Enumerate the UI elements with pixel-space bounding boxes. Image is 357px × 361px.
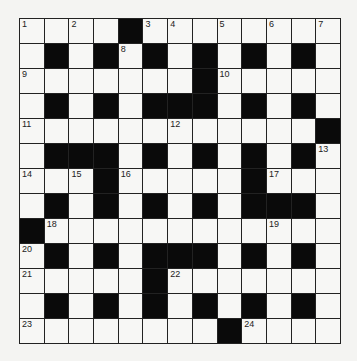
grid-cell[interactable]: [20, 294, 44, 318]
grid-cell[interactable]: [218, 269, 242, 293]
grid-cell[interactable]: [218, 219, 242, 243]
grid-cell[interactable]: [218, 194, 242, 218]
grid-cell[interactable]: [69, 44, 93, 68]
grid-cell[interactable]: [143, 69, 167, 93]
grid-cell[interactable]: [193, 269, 217, 293]
grid-cell[interactable]: [94, 19, 118, 43]
grid-cell[interactable]: [316, 269, 340, 293]
grid-cell[interactable]: [316, 219, 340, 243]
grid-cell[interactable]: [316, 294, 340, 318]
grid-cell[interactable]: [168, 194, 192, 218]
grid-cell[interactable]: 12: [168, 119, 192, 143]
grid-cell[interactable]: [143, 319, 167, 343]
grid-cell[interactable]: [69, 319, 93, 343]
grid-cell[interactable]: [218, 44, 242, 68]
grid-cell[interactable]: [292, 269, 316, 293]
grid-cell[interactable]: [168, 44, 192, 68]
grid-cell[interactable]: [119, 244, 143, 268]
grid-cell[interactable]: [168, 294, 192, 318]
grid-cell[interactable]: [69, 94, 93, 118]
grid-cell[interactable]: 18: [45, 219, 69, 243]
grid-cell[interactable]: 8: [119, 44, 143, 68]
grid-cell[interactable]: [193, 319, 217, 343]
grid-cell[interactable]: [316, 69, 340, 93]
grid-cell[interactable]: [218, 244, 242, 268]
grid-cell[interactable]: [94, 319, 118, 343]
grid-cell[interactable]: 22: [168, 269, 192, 293]
grid-cell[interactable]: [45, 269, 69, 293]
grid-cell[interactable]: [193, 19, 217, 43]
grid-cell[interactable]: [143, 169, 167, 193]
grid-cell[interactable]: [193, 219, 217, 243]
grid-cell[interactable]: [20, 44, 44, 68]
grid-cell[interactable]: [292, 319, 316, 343]
grid-cell[interactable]: [69, 119, 93, 143]
grid-cell[interactable]: [267, 69, 291, 93]
grid-cell[interactable]: [45, 169, 69, 193]
grid-cell[interactable]: [193, 119, 217, 143]
grid-cell[interactable]: [267, 94, 291, 118]
grid-cell[interactable]: 10: [218, 69, 242, 93]
grid-cell[interactable]: 5: [218, 19, 242, 43]
grid-cell[interactable]: [168, 169, 192, 193]
grid-cell[interactable]: [242, 219, 266, 243]
grid-cell[interactable]: [168, 319, 192, 343]
grid-cell[interactable]: 6: [267, 19, 291, 43]
grid-cell[interactable]: [242, 19, 266, 43]
grid-cell[interactable]: [218, 169, 242, 193]
grid-cell[interactable]: 1: [20, 19, 44, 43]
grid-cell[interactable]: [69, 244, 93, 268]
grid-cell[interactable]: 7: [316, 19, 340, 43]
grid-cell[interactable]: [267, 294, 291, 318]
grid-cell[interactable]: [316, 169, 340, 193]
grid-cell[interactable]: [292, 119, 316, 143]
grid-cell[interactable]: [45, 19, 69, 43]
grid-cell[interactable]: [119, 294, 143, 318]
grid-cell[interactable]: [218, 119, 242, 143]
grid-cell[interactable]: [292, 19, 316, 43]
grid-cell[interactable]: [168, 69, 192, 93]
grid-cell[interactable]: [316, 94, 340, 118]
grid-cell[interactable]: [119, 69, 143, 93]
grid-cell[interactable]: 13: [316, 144, 340, 168]
grid-cell[interactable]: 3: [143, 19, 167, 43]
grid-cell[interactable]: [267, 269, 291, 293]
grid-cell[interactable]: 21: [20, 269, 44, 293]
grid-cell[interactable]: [316, 244, 340, 268]
grid-cell[interactable]: 9: [20, 69, 44, 93]
grid-cell[interactable]: [242, 269, 266, 293]
grid-cell[interactable]: [242, 119, 266, 143]
grid-cell[interactable]: [69, 269, 93, 293]
grid-cell[interactable]: 17: [267, 169, 291, 193]
grid-cell[interactable]: [292, 169, 316, 193]
grid-cell[interactable]: [45, 319, 69, 343]
grid-cell[interactable]: [316, 44, 340, 68]
grid-cell[interactable]: [119, 269, 143, 293]
grid-cell[interactable]: 14: [20, 169, 44, 193]
grid-cell[interactable]: 4: [168, 19, 192, 43]
grid-cell[interactable]: [69, 294, 93, 318]
grid-cell[interactable]: [20, 194, 44, 218]
grid-cell[interactable]: 16: [119, 169, 143, 193]
grid-cell[interactable]: [119, 119, 143, 143]
grid-cell[interactable]: 2: [69, 19, 93, 43]
grid-cell[interactable]: [119, 219, 143, 243]
grid-cell[interactable]: [143, 219, 167, 243]
grid-cell[interactable]: [292, 219, 316, 243]
grid-cell[interactable]: [242, 69, 266, 93]
grid-cell[interactable]: [94, 119, 118, 143]
grid-cell[interactable]: [193, 169, 217, 193]
grid-cell[interactable]: [119, 144, 143, 168]
grid-cell[interactable]: 19: [267, 219, 291, 243]
grid-cell[interactable]: [316, 319, 340, 343]
grid-cell[interactable]: [119, 94, 143, 118]
grid-cell[interactable]: 15: [69, 169, 93, 193]
grid-cell[interactable]: [45, 119, 69, 143]
grid-cell[interactable]: [267, 319, 291, 343]
grid-cell[interactable]: [316, 194, 340, 218]
grid-cell[interactable]: [20, 144, 44, 168]
grid-cell[interactable]: [143, 119, 167, 143]
grid-cell[interactable]: [267, 44, 291, 68]
grid-cell[interactable]: [218, 294, 242, 318]
grid-cell[interactable]: [94, 219, 118, 243]
